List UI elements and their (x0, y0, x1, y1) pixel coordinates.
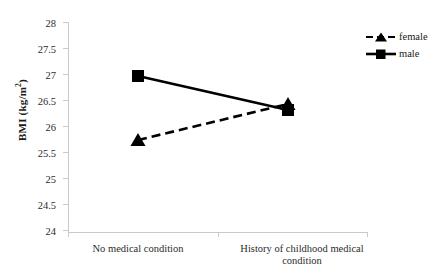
x-tick-label-history-of-childhood-medical-condition: History of childhood medical condition (209, 243, 395, 267)
series-female-marker-1 (281, 97, 296, 110)
y-tick-label-24-5: 24.5 (22, 201, 56, 212)
y-tick-label-27: 27 (22, 71, 56, 82)
series-female (131, 97, 296, 146)
x-tick-label-line: History of childhood medical (240, 243, 363, 254)
y-tick-marks (63, 23, 68, 231)
square-marker-icon (376, 49, 386, 59)
series-male-line (138, 76, 288, 110)
legend-label-male: male (399, 48, 419, 59)
legend-key-female (366, 31, 396, 43)
triangle-marker-icon (375, 32, 387, 41)
series-male (132, 70, 294, 116)
legend-key-male (366, 48, 396, 60)
legend: female male (366, 28, 444, 62)
series-male-marker-0 (132, 70, 144, 82)
legend-item-female: female (366, 28, 444, 45)
x-tick-label-line: condition (282, 255, 322, 266)
y-tick-label-28: 28 (22, 19, 56, 30)
y-tick-label-26-5: 26.5 (22, 97, 56, 108)
y-tick-label-25-5: 25.5 (22, 149, 56, 160)
x-tick-label-line: No medical condition (93, 243, 184, 254)
interaction-plot-figure: BMI (kg/m2) 28 27.5 27 26.5 26 25.5 25 2… (0, 0, 444, 278)
x-tick-label-no-medical-condition: No medical condition (73, 243, 203, 255)
series-male-marker-1 (282, 104, 294, 116)
y-tick-label-27-5: 27.5 (22, 45, 56, 56)
y-tick-label-24: 24 (22, 227, 56, 238)
legend-label-female: female (399, 31, 428, 42)
x-tick-marks (69, 232, 368, 237)
legend-item-male: male (366, 45, 444, 62)
y-axis-title-exponent: 2 (14, 83, 23, 87)
y-tick-label-26: 26 (22, 123, 56, 134)
y-tick-label-25: 25 (22, 175, 56, 186)
series-female-marker-0 (131, 133, 146, 146)
series-female-line (138, 104, 288, 140)
